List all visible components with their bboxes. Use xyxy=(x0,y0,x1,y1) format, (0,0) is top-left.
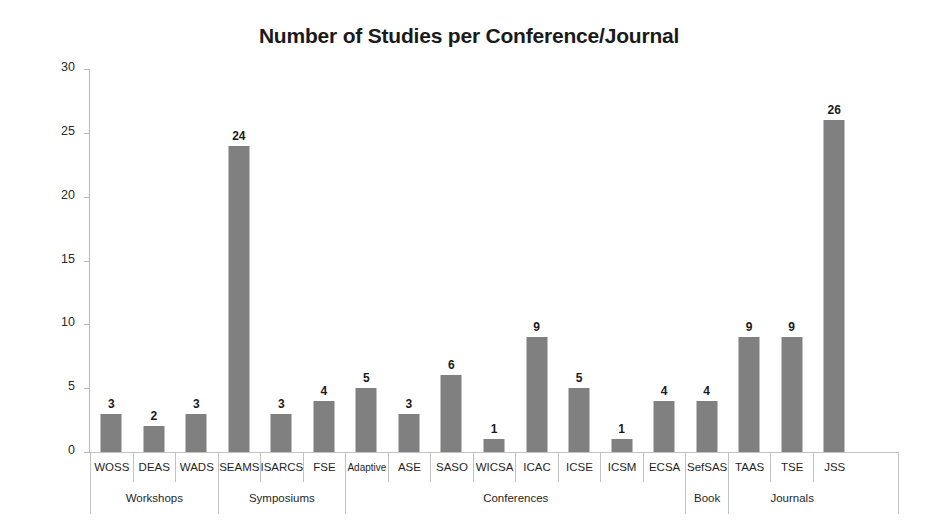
bar xyxy=(781,337,802,452)
bar xyxy=(526,337,547,452)
bar-column: 2 xyxy=(133,69,176,452)
category-label: SEAMS xyxy=(218,452,261,482)
y-axis-tick-label: 25 xyxy=(61,124,75,138)
bar-column: 4 xyxy=(303,69,346,452)
bar-value-label: 26 xyxy=(813,103,856,117)
category-label: WADS xyxy=(175,452,218,482)
bar-column: 24 xyxy=(218,69,261,452)
bar xyxy=(186,414,207,452)
bar-column: 4 xyxy=(685,69,728,452)
bar xyxy=(228,146,249,452)
plot-area: 051015202530 32324345361951449926 xyxy=(90,69,898,452)
category-label: FSE xyxy=(303,452,346,482)
category-label: ASE xyxy=(388,452,431,482)
category-label: TAAS xyxy=(728,452,771,482)
y-axis-tick-label: 20 xyxy=(61,188,75,202)
bar-value-label: 24 xyxy=(218,129,261,143)
page-title: Number of Studies per Conference/Journal xyxy=(0,24,938,48)
bar-column: 1 xyxy=(473,69,516,452)
group-label: Workshops xyxy=(90,482,218,514)
bar-series: 32324345361951449926 xyxy=(90,69,898,452)
bar-value-label: 2 xyxy=(133,409,176,423)
bar-value-label: 3 xyxy=(260,397,303,411)
category-row: WOSSDEASWADSSEAMSISARCSFSEAdaptiveASESAS… xyxy=(90,452,898,482)
bar-value-label: 4 xyxy=(303,384,346,398)
bar xyxy=(611,439,632,452)
category-label: ICSM xyxy=(600,452,643,482)
bar-value-label: 4 xyxy=(685,384,728,398)
y-axis-tick-label: 30 xyxy=(61,60,75,74)
group-label: Conferences xyxy=(345,482,685,514)
bar-value-label: 3 xyxy=(175,397,218,411)
bar-column: 4 xyxy=(643,69,686,452)
category-label: WICSA xyxy=(473,452,516,482)
category-label: JSS xyxy=(813,452,856,482)
bar xyxy=(483,439,504,452)
category-label: WOSS xyxy=(90,452,133,482)
bar xyxy=(441,375,462,452)
bar xyxy=(654,401,675,452)
bar xyxy=(398,414,419,452)
bar-column: 9 xyxy=(770,69,813,452)
bar-column: 9 xyxy=(515,69,558,452)
bar xyxy=(271,414,292,452)
bar-column: 3 xyxy=(90,69,133,452)
bar-value-label: 9 xyxy=(515,320,558,334)
category-label: ICSE xyxy=(558,452,601,482)
bar-value-label: 5 xyxy=(345,371,388,385)
bar-value-label: 5 xyxy=(558,371,601,385)
bar-column: 3 xyxy=(260,69,303,452)
bar-column: 3 xyxy=(388,69,431,452)
category-label: SefSAS xyxy=(685,452,728,482)
category-label: ISARCS xyxy=(260,452,303,482)
group-label: Symposiums xyxy=(218,482,346,514)
category-label: SASO xyxy=(430,452,473,482)
bar-column: 1 xyxy=(600,69,643,452)
y-axis-tick-label: 10 xyxy=(61,315,75,329)
bar-value-label: 3 xyxy=(388,397,431,411)
bar xyxy=(143,426,164,452)
category-label: ECSA xyxy=(643,452,686,482)
bar-value-label: 9 xyxy=(770,320,813,334)
bar xyxy=(569,388,590,452)
bar-value-label: 3 xyxy=(90,397,133,411)
category-label: TSE xyxy=(770,452,813,482)
bar xyxy=(824,120,845,452)
y-axis-tick-label: 15 xyxy=(61,252,75,266)
group-label: Journals xyxy=(728,482,856,514)
bar xyxy=(356,388,377,452)
group-row: WorkshopsSymposiumsConferencesBookJourna… xyxy=(90,482,898,514)
bar-column: 6 xyxy=(430,69,473,452)
category-label: DEAS xyxy=(133,452,176,482)
bar-column: 26 xyxy=(813,69,856,452)
y-axis-tick-label: 5 xyxy=(68,379,75,393)
bar-value-label: 1 xyxy=(473,422,516,436)
bar-column: 3 xyxy=(175,69,218,452)
bar-value-label: 6 xyxy=(430,358,473,372)
bar-column: 5 xyxy=(345,69,388,452)
bar xyxy=(696,401,717,452)
category-label: ICAC xyxy=(515,452,558,482)
bar xyxy=(739,337,760,452)
bar-value-label: 1 xyxy=(600,422,643,436)
table-right-border xyxy=(898,452,899,514)
bar xyxy=(101,414,122,452)
bar-column: 5 xyxy=(558,69,601,452)
group-label: Book xyxy=(685,482,728,514)
bar-value-label: 4 xyxy=(643,384,686,398)
category-label-table: WOSSDEASWADSSEAMSISARCSFSEAdaptiveASESAS… xyxy=(90,452,898,514)
bar xyxy=(313,401,334,452)
bar-value-label: 9 xyxy=(728,320,771,334)
y-axis-tick-label: 0 xyxy=(68,443,75,457)
bar-column: 9 xyxy=(728,69,771,452)
category-label: Adaptive xyxy=(345,452,388,482)
